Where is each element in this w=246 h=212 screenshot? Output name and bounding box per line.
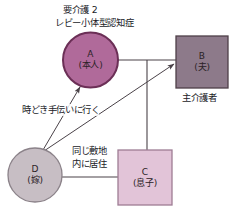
support-note-label: 時どき手伝いに行く (22, 104, 99, 116)
diagnosis-title-line-2: レビー小体型認知症 (55, 17, 133, 29)
diagnosis-title-line-1: 要介護 2 (63, 4, 97, 16)
edge-d-to-a-arrow (43, 87, 80, 150)
main-caregiver-caption: 主介護者 (182, 92, 217, 104)
genogram-diagram: 要介護 2 レビー小体型認知症 A (本人) B (夫) 主介護者 C (息子)… (0, 0, 246, 212)
node-a-shape[interactable] (63, 33, 118, 88)
residence-note-line-2: 内に居住 (72, 158, 106, 170)
residence-note-line-1: 同じ敷地 (72, 145, 106, 157)
node-b-shape[interactable] (176, 36, 228, 88)
node-d-shape[interactable] (8, 148, 62, 202)
node-c-shape[interactable] (118, 150, 172, 205)
